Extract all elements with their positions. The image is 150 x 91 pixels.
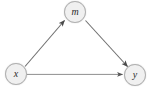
node-m[interactable]: m xyxy=(64,1,86,23)
node-m-label: m xyxy=(71,7,78,17)
edge-x-to-m xyxy=(25,21,65,67)
node-y[interactable]: y xyxy=(124,64,146,86)
edge-m-to-y xyxy=(86,21,128,67)
node-x[interactable]: x xyxy=(5,63,27,85)
node-y-label: y xyxy=(133,70,137,80)
diagram-canvas: m x y xyxy=(0,0,150,91)
node-x-label: x xyxy=(14,69,18,79)
